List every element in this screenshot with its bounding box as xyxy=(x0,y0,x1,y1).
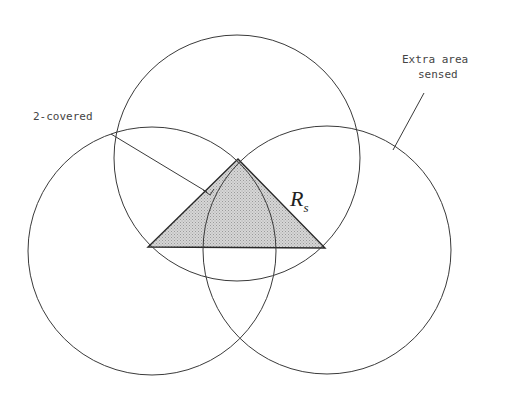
radius-label-subscript: s xyxy=(303,200,308,215)
two-covered-leader-line xyxy=(111,134,207,192)
coverage-diagram: 2-covered Extra area sensed Rs xyxy=(0,0,505,399)
extra-area-leader-line xyxy=(393,93,424,150)
extra-area-label-line2: sensed xyxy=(418,68,458,81)
extra-area-label-line1: Extra area xyxy=(402,53,468,66)
radius-label: Rs xyxy=(289,186,309,215)
radius-label-main: R xyxy=(289,186,304,211)
two-covered-label: 2-covered xyxy=(33,110,93,123)
